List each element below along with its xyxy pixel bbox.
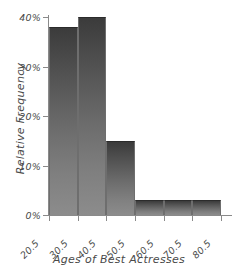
x-tick-mark: [78, 216, 79, 221]
y-tick-label: 0%: [26, 210, 41, 221]
y-axis-title: Relative Frequency: [14, 39, 27, 199]
x-tick-mark: [106, 216, 107, 221]
histogram-chart: 0%10%20%30%40% 20.530.540.550.560.570.58…: [0, 0, 238, 275]
bar-bin-3: [106, 141, 135, 215]
x-tick-mark: [164, 216, 165, 221]
x-tick-mark: [135, 216, 136, 221]
y-tick-mark: [43, 116, 49, 117]
bar-bin-5: [164, 200, 193, 215]
bar-bin-4: [135, 200, 164, 215]
y-tick-mark: [43, 17, 49, 18]
bar-bin-2: [78, 17, 107, 215]
x-tick-mark: [221, 216, 222, 221]
x-axis-title: Ages of Best Actresses: [0, 253, 238, 266]
y-tick-mark: [43, 67, 49, 68]
x-tick-mark: [49, 216, 50, 221]
x-axis-line: [48, 215, 232, 216]
x-tick-mark: [192, 216, 193, 221]
plot-area: [49, 17, 221, 215]
bar-bin-1: [49, 27, 78, 215]
y-tick-label: 40%: [19, 12, 41, 23]
bar-bin-6: [192, 200, 221, 215]
y-tick-mark: [43, 166, 49, 167]
